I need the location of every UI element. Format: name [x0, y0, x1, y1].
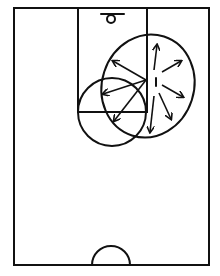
arrow-icon [114, 80, 146, 121]
arrow-icon [154, 45, 157, 70]
arrow-icon [150, 96, 154, 132]
court-diagram [0, 0, 220, 276]
arrow-icon [113, 61, 146, 80]
movement-arrows [103, 45, 183, 132]
center-circle-arc [92, 246, 130, 265]
arrow-icon [159, 93, 171, 119]
arrow-icon [162, 61, 181, 72]
arrow-icon [162, 85, 183, 97]
hoop-icon [107, 15, 115, 23]
